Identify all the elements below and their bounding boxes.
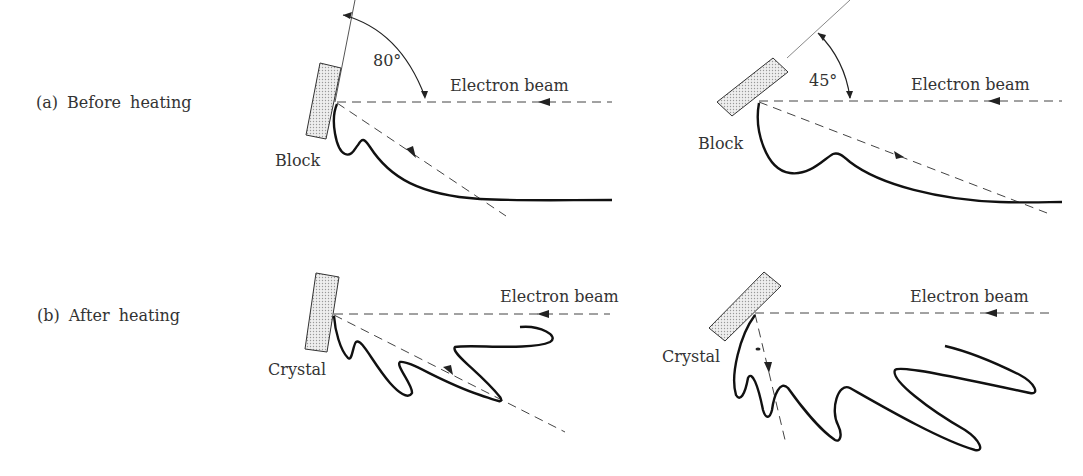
diagram-canvas: 80° Electron beam Block 45° Electron bea… <box>0 0 1083 476</box>
electron-scattering-figure: (a) Before heating (b) After heating <box>0 0 1083 476</box>
specular-reflection-line <box>334 315 565 432</box>
intensity-curve <box>758 103 1062 202</box>
specular-reflection-line <box>759 102 1047 213</box>
panel-a-80deg: 80° Electron beam Block <box>275 0 612 216</box>
object-label: Block <box>275 151 320 170</box>
crystal-sample <box>305 273 339 352</box>
beam-arrow-icon <box>537 310 549 318</box>
intensity-curve <box>334 104 612 200</box>
panel-b-crystal-1: Electron beam Crystal <box>268 273 619 432</box>
object-label: Crystal <box>268 360 326 379</box>
object-label: Block <box>698 134 743 153</box>
beam-arrow-icon <box>985 309 997 317</box>
angle-arrow-bottom-icon <box>846 91 853 99</box>
reflection-arrow-icon <box>443 365 453 375</box>
panel-a-45deg: 45° Electron beam Block <box>698 0 1062 213</box>
beam-label: Electron beam <box>911 75 1030 94</box>
surface-normal-line <box>787 0 850 58</box>
intensity-curve <box>334 316 553 401</box>
beam-label: Electron beam <box>910 287 1029 306</box>
reflection-arrow-icon <box>406 146 416 158</box>
reflection-arrow-icon <box>764 362 772 373</box>
reflection-dot-icon <box>756 348 761 351</box>
beam-arrow-icon <box>538 98 550 106</box>
block-sample <box>306 63 341 139</box>
angle-arrow-top-icon <box>343 12 352 19</box>
intensity-curve <box>734 315 1035 450</box>
panel-b-crystal-2: Electron beam Crystal <box>662 272 1055 450</box>
beam-label: Electron beam <box>500 287 619 306</box>
block-sample <box>717 58 788 116</box>
angle-label: 80° <box>373 51 401 70</box>
beam-arrow-icon <box>988 97 1000 105</box>
specular-reflection-line <box>755 314 786 444</box>
object-label: Crystal <box>662 347 720 366</box>
beam-label: Electron beam <box>450 76 569 95</box>
angle-label: 45° <box>809 71 837 90</box>
angle-arrow-bottom-icon <box>421 91 428 99</box>
